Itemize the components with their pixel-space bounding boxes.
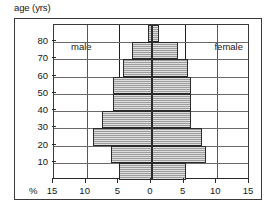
x-tick-label-3: 0 (147, 185, 152, 196)
bar-male-30-40 (102, 111, 152, 128)
y-tick-mark-50 (52, 92, 56, 93)
bar-female-20-30 (152, 128, 202, 145)
bar-male-20-30 (93, 128, 152, 145)
y-tick-label-50: 50 (14, 86, 48, 97)
x-tick-mark-0 (52, 178, 53, 183)
bar-female-60-70 (152, 59, 188, 76)
x-tick-label-1: 10 (79, 185, 90, 196)
gridline-vertical-10 (217, 25, 218, 178)
y-tick-mark-20 (52, 144, 56, 145)
bar-female-70-80 (152, 42, 178, 59)
x-tick-mark-4 (183, 178, 184, 183)
y-axis: 1020304050607080 (14, 18, 48, 200)
y-tick-label-20: 20 (14, 138, 48, 149)
y-tick-label-40: 40 (14, 104, 48, 115)
bar-female-30-40 (152, 111, 191, 128)
y-tick-label-80: 80 (14, 35, 48, 46)
x-tick-label-0: 15 (47, 185, 58, 196)
x-tick-label-5: 10 (210, 185, 221, 196)
bar-male-50-60 (113, 77, 152, 94)
plot-area (53, 24, 249, 179)
y-tick-label-60: 60 (14, 69, 48, 80)
bar-female-80+ (152, 25, 159, 42)
y-tick-mark-10 (52, 161, 56, 162)
y-tick-mark-70 (52, 57, 56, 58)
bar-male-70-80 (132, 42, 152, 59)
bar-female-50-60 (152, 77, 191, 94)
x-axis: % 15105051015 (14, 178, 262, 200)
x-tick-mark-3 (150, 178, 151, 183)
x-tick-label-2: 5 (115, 185, 120, 196)
gridline-vertical-10 (87, 25, 88, 178)
bar-male-10-20 (111, 146, 152, 163)
x-tick-mark-6 (248, 178, 249, 183)
y-tick-mark-30 (52, 126, 56, 127)
x-axis-unit-label: % (29, 185, 37, 196)
y-tick-mark-60 (52, 75, 56, 76)
y-tick-mark-40 (52, 109, 56, 110)
x-tick-label-4: 5 (180, 185, 185, 196)
y-tick-mark-80 (52, 40, 56, 41)
y-tick-label-70: 70 (14, 52, 48, 63)
x-tick-mark-5 (215, 178, 216, 183)
y-tick-label-10: 10 (14, 155, 48, 166)
bar-female-10-20 (152, 146, 206, 163)
y-axis-title: age (yrs) (14, 2, 51, 13)
bar-male-40-50 (113, 94, 152, 111)
x-tick-label-6: 15 (243, 185, 254, 196)
y-tick-label-30: 30 (14, 121, 48, 132)
x-tick-mark-1 (85, 178, 86, 183)
bar-male-60-70 (123, 59, 152, 76)
bar-female-40-50 (152, 94, 191, 111)
x-tick-mark-2 (117, 178, 118, 183)
